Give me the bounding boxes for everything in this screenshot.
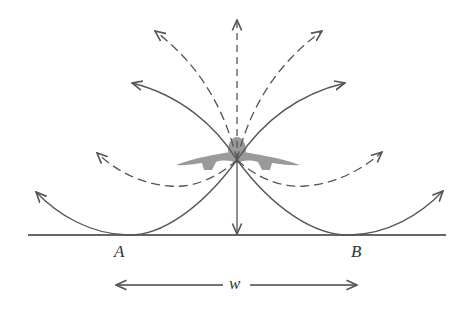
label-a: A [114,242,124,262]
curve-left-outer [36,160,237,235]
curve-right-outer [237,160,443,235]
curve-right-mid [237,83,345,160]
diagram-canvas [0,0,466,315]
label-w: w [229,274,240,294]
label-b: B [351,242,361,262]
curve-left-mid [132,83,237,160]
